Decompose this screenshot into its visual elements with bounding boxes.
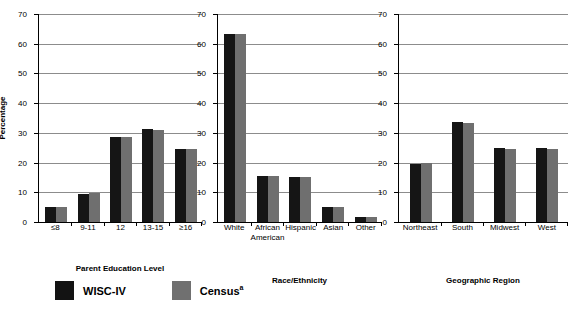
x-label: West <box>526 223 568 233</box>
bar-groups-geographic-region <box>400 14 568 222</box>
bar-groups-parent-education <box>40 14 202 222</box>
bar-census <box>235 34 246 222</box>
y-tick-70: 70 <box>394 14 399 15</box>
legend-label-superscript: a <box>240 284 244 291</box>
bar-census <box>153 130 164 222</box>
y-tick-label-60: 60 <box>378 41 387 49</box>
y-tick-label-20: 20 <box>18 160 27 168</box>
y-tick-40: 40 <box>394 103 399 104</box>
bar-census <box>333 207 344 222</box>
y-tick-50: 50 <box>34 73 39 74</box>
x-category-labels-parent-education: ≤8 9-11 12 13-15 ≥16 <box>39 223 202 233</box>
legend-swatch-census <box>172 281 191 300</box>
bar-census <box>186 149 197 222</box>
y-tick-label-40: 40 <box>197 100 206 108</box>
y-tick-label-70: 70 <box>378 11 387 19</box>
bar-wisc <box>224 34 235 222</box>
bar-census <box>366 217 377 222</box>
y-tick-label-30: 30 <box>18 130 27 138</box>
bar-census <box>300 177 311 222</box>
bar-census <box>505 149 516 222</box>
plot-area-geographic-region: 70 60 50 40 30 20 10 0 <box>398 14 568 222</box>
y-tick-30: 30 <box>394 133 399 134</box>
bar-wisc <box>289 177 300 222</box>
chart-legend: WISC-IV Censusa <box>55 281 289 300</box>
bar-census <box>421 163 432 222</box>
legend-label-text: WISC-IV <box>83 285 126 297</box>
bar-group <box>484 14 526 222</box>
y-tick-label-70: 70 <box>197 11 206 19</box>
bar-census <box>547 149 558 222</box>
bar-wisc <box>110 137 121 222</box>
bar-chart-figure: Percentage 70 60 50 40 30 20 10 0 <box>0 0 586 315</box>
x-category-labels-race-ethnicity: White AfricanAmerican Hispanic Asian Oth… <box>218 223 382 242</box>
x-label-line1: White <box>224 223 244 232</box>
y-tick-10: 10 <box>213 192 218 193</box>
bar-census <box>463 123 474 222</box>
bar-wisc <box>322 207 333 222</box>
bar-group <box>317 14 350 222</box>
y-tick-30: 30 <box>213 133 218 134</box>
bar-census <box>56 207 67 222</box>
y-tick-20: 20 <box>213 163 218 164</box>
y-tick-label-70: 70 <box>18 11 27 19</box>
x-label: Midwest <box>484 223 526 233</box>
bar-wisc <box>452 122 463 222</box>
y-tick-label-20: 20 <box>197 160 206 168</box>
bar-group <box>40 14 72 222</box>
bar-group <box>137 14 169 222</box>
x-label: 9-11 <box>72 223 105 233</box>
x-axis-title-parent-education: Parent Education Level <box>38 264 202 273</box>
bar-wisc <box>355 217 366 222</box>
bar-group <box>252 14 285 222</box>
bar-wisc <box>142 129 153 222</box>
x-category-labels-geographic-region: Northeast South Midwest West <box>399 223 568 233</box>
y-tick-20: 20 <box>394 163 399 164</box>
y-tick-label-40: 40 <box>18 100 27 108</box>
bar-group <box>72 14 104 222</box>
y-tick-label-30: 30 <box>378 130 387 138</box>
x-label: Other <box>349 223 382 242</box>
y-tick-label-50: 50 <box>378 70 387 78</box>
legend-label-wisc-iv: WISC-IV <box>83 285 126 297</box>
plot-area-race-ethnicity: 70 60 50 40 30 20 10 0 <box>217 14 382 222</box>
x-axis-title-geographic-region: Geographic Region <box>398 276 568 285</box>
x-label: White <box>218 223 251 242</box>
bar-group <box>526 14 568 222</box>
y-tick-label-10: 10 <box>378 189 387 197</box>
y-tick-label-0: 0 <box>383 219 387 227</box>
x-label: ≥16 <box>169 223 202 233</box>
y-tick-10: 10 <box>394 192 399 193</box>
y-tick-50: 50 <box>213 73 218 74</box>
y-tick-label-50: 50 <box>18 70 27 78</box>
legend-label-text: Census <box>200 285 240 297</box>
bar-wisc <box>494 148 505 222</box>
legend-item-census: Censusa <box>172 281 244 300</box>
x-label-line1: Hispanic <box>285 223 316 232</box>
y-tick-70: 70 <box>34 14 39 15</box>
y-tick-60: 60 <box>34 44 39 45</box>
x-label: Hispanic <box>284 223 317 242</box>
legend-item-wisc-iv: WISC-IV <box>55 281 126 300</box>
x-label: AfricanAmerican <box>251 223 285 242</box>
bar-group <box>400 14 442 222</box>
y-tick-label-30: 30 <box>197 130 206 138</box>
panel-race-ethnicity: 70 60 50 40 30 20 10 0 <box>217 14 382 236</box>
bar-group <box>219 14 252 222</box>
x-label: ≤8 <box>39 223 72 233</box>
bar-wisc <box>175 149 186 222</box>
y-tick-20: 20 <box>34 163 39 164</box>
bar-wisc <box>45 207 56 222</box>
panel-parent-education: 70 60 50 40 30 20 10 0 <box>38 14 202 236</box>
y-tick-30: 30 <box>34 133 39 134</box>
plot-area-parent-education: 70 60 50 40 30 20 10 0 <box>38 14 202 222</box>
y-tick-40: 40 <box>213 103 218 104</box>
x-label: Asian <box>317 223 350 242</box>
x-label: South <box>441 223 483 233</box>
x-label: Northeast <box>399 223 441 233</box>
legend-swatch-wisc-iv <box>55 281 74 300</box>
y-tick-50: 50 <box>394 73 399 74</box>
y-axis-title: Percentage <box>0 96 7 139</box>
y-tick-label-40: 40 <box>378 100 387 108</box>
y-tick-60: 60 <box>213 44 218 45</box>
